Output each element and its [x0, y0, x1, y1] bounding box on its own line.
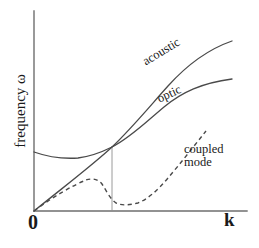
coupled-mode-curve-label: coupled mode [184, 143, 224, 169]
acoustic-curve [34, 41, 232, 211]
coupled-mode-label-line2: mode [184, 156, 224, 169]
origin-label: 0 [28, 212, 38, 233]
y-axis-label: frequency ω [13, 49, 29, 173]
plot-canvas [0, 0, 259, 248]
dispersion-relation-figure: frequency ω 0 k acoustic optic coupled m… [0, 0, 259, 248]
x-axis-label: k [224, 210, 235, 230]
